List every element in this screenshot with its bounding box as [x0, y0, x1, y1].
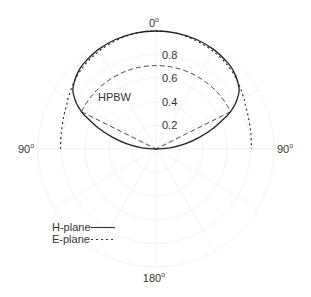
- r-tick-label: 0.8: [162, 49, 177, 61]
- grid-spoke: [54, 149, 156, 208]
- radial-tick-labels: 0.20.40.60.8: [162, 49, 177, 132]
- angle-label: 90o: [277, 142, 293, 155]
- r-tick-label: 0.4: [162, 96, 177, 108]
- angle-label: 90o: [18, 142, 34, 155]
- grid-spoke: [97, 149, 156, 251]
- angle-label: 0o: [149, 16, 159, 29]
- legend: H-planeE-plane: [52, 221, 115, 245]
- grid-spoke: [156, 149, 258, 208]
- angle-label: 180o: [143, 271, 165, 284]
- r-tick-label: 0.6: [162, 72, 177, 84]
- r-tick-label: 0.2: [162, 119, 177, 131]
- grid-spoke: [156, 149, 215, 251]
- hpbw-label: HPBW: [98, 91, 132, 103]
- legend-label: H-plane: [52, 221, 91, 233]
- legend-label: E-plane: [52, 233, 90, 245]
- polar-plot: 0.20.40.60.8 0o90o90o180o HPBW H-planeE-…: [0, 0, 311, 297]
